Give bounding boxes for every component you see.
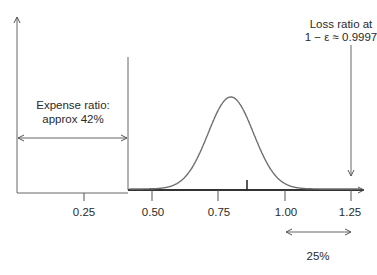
density-curve <box>129 97 361 189</box>
loss-ratio-label-line1: Loss ratio at <box>310 18 373 31</box>
span-25-label: 25% <box>306 250 329 263</box>
tick-label-1.25: 1.25 <box>339 206 361 219</box>
tick-label-1.00: 1.00 <box>275 206 297 219</box>
expense-ratio-label-line1: Expense ratio: <box>36 99 110 112</box>
x-ticks <box>84 190 351 201</box>
loss-ratio-label-line2: 1 − ε ≈ 0.9997 <box>305 31 377 44</box>
tick-label-0.50: 0.50 <box>142 206 164 219</box>
tick-label-0.25: 0.25 <box>73 206 95 219</box>
tick-label-0.75: 0.75 <box>208 206 230 219</box>
expense-ratio-label-line2: approx 42% <box>42 113 103 126</box>
